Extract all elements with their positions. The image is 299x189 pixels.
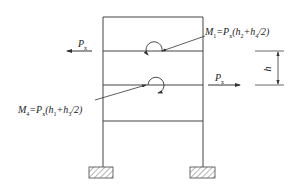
formula-part: +h <box>244 26 256 37</box>
moment-label-m1: M1=Px(h2+h4/2) <box>205 27 269 39</box>
moment-arc-upper-icon <box>146 42 162 55</box>
left-footing <box>89 167 113 178</box>
load-label-lower: Px <box>215 73 224 85</box>
formula-part: (h <box>232 26 240 37</box>
load-label-upper: Px <box>78 39 87 51</box>
dimension-label-h: h <box>263 67 273 72</box>
formula-part: +h <box>57 104 69 115</box>
leader-m1 <box>162 36 205 51</box>
load-subscript: x <box>221 79 224 85</box>
formula-part: =P <box>29 104 42 115</box>
formula-part: /2) <box>71 104 82 115</box>
moment-label-m4: M4=Px(h1+h3/2) <box>18 105 82 117</box>
h-symbol: h <box>262 67 273 72</box>
load-subscript: x <box>84 45 87 51</box>
formula-part: (h <box>45 104 53 115</box>
formula-part: =P <box>216 26 229 37</box>
right-footing <box>190 167 215 178</box>
formula-part: /2) <box>258 26 269 37</box>
